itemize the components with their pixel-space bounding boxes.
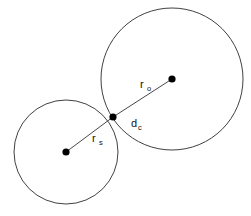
geometry-diagram: r o d c r s <box>0 0 251 216</box>
label-d-contact-subscript: c <box>138 123 142 132</box>
label-r-small-subscript: s <box>99 138 103 147</box>
label-r-outer-subscript: o <box>147 84 151 93</box>
label-r-outer: r <box>140 78 144 90</box>
large-circle-center-dot <box>168 75 175 82</box>
tangent-point-dot <box>109 113 116 120</box>
small-circle-center-dot <box>62 148 69 155</box>
diagram-canvas: r o d c r s <box>0 0 251 216</box>
label-r-small: r <box>92 132 96 144</box>
label-d-contact: d <box>131 117 137 129</box>
